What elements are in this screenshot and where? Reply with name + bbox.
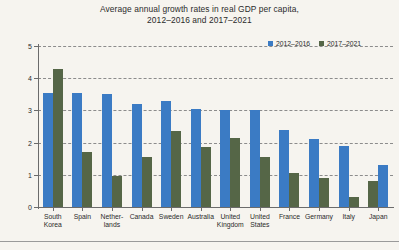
x-axis-tick — [142, 207, 143, 211]
y-axis-tick-label: 3 — [22, 107, 32, 114]
x-axis-tick-label-line: Japan — [356, 213, 399, 221]
bar-group — [216, 46, 246, 207]
x-axis-tick — [82, 207, 83, 211]
x-axis-tick-label-line: lands — [90, 221, 134, 229]
y-axis-tick — [34, 110, 38, 111]
bar — [378, 165, 388, 207]
bar — [368, 181, 378, 207]
x-axis-tick — [53, 207, 54, 211]
y-axis-tick — [34, 143, 38, 144]
bar-group — [363, 46, 393, 207]
x-axis-tick — [230, 207, 231, 211]
x-axis-tick — [171, 207, 172, 211]
bar — [191, 109, 201, 207]
bar-group — [334, 46, 364, 207]
y-axis-tick — [34, 78, 38, 79]
x-axis-line — [38, 207, 394, 208]
chart-title: Average annual growth rates in real GDP … — [0, 4, 399, 15]
bar-group — [156, 46, 186, 207]
bar — [132, 104, 142, 207]
bar-group — [97, 46, 127, 207]
bar — [220, 110, 230, 207]
plot-area — [38, 46, 393, 207]
bar — [112, 176, 122, 207]
footer-rule — [0, 241, 399, 242]
bar — [279, 130, 289, 207]
bar — [161, 101, 171, 207]
chart-figure: Average annual growth rates in real GDP … — [0, 0, 399, 250]
x-axis-tick — [349, 207, 350, 211]
bar — [260, 157, 270, 207]
bar — [53, 69, 63, 207]
x-axis-tick — [260, 207, 261, 211]
x-axis-tick-label: Japan — [356, 213, 399, 221]
bar — [82, 152, 92, 207]
bar-group — [304, 46, 334, 207]
bar — [43, 93, 53, 207]
x-axis-tick — [378, 207, 379, 211]
x-axis-tick — [289, 207, 290, 211]
bar — [289, 173, 299, 207]
y-axis-tick — [34, 175, 38, 176]
bar-group — [127, 46, 157, 207]
bar-group — [245, 46, 275, 207]
bar — [319, 178, 329, 207]
bar — [72, 93, 82, 207]
x-axis-tick-label-line: States — [238, 221, 282, 229]
y-axis-tick-label: 5 — [22, 43, 32, 50]
y-axis-tick — [34, 46, 38, 47]
bar — [201, 147, 211, 207]
chart-title-block: Average annual growth rates in real GDP … — [0, 4, 399, 26]
bar-group — [186, 46, 216, 207]
bar-group — [68, 46, 98, 207]
x-axis-tick — [319, 207, 320, 211]
bar — [230, 138, 240, 207]
y-axis-tick-label: 4 — [22, 75, 32, 82]
bar — [102, 94, 112, 207]
bar — [250, 110, 260, 207]
y-axis-line — [38, 44, 39, 209]
x-axis-tick — [112, 207, 113, 211]
bar-group — [275, 46, 305, 207]
y-axis-tick — [34, 207, 38, 208]
chart-subtitle: 2012–2016 and 2017–2021 — [0, 15, 399, 26]
bar — [309, 139, 319, 207]
y-axis-tick-label: 1 — [22, 171, 32, 178]
x-axis-tick — [201, 207, 202, 211]
bar — [171, 131, 181, 207]
bar — [339, 146, 349, 207]
y-axis-tick-label: 0 — [22, 204, 32, 211]
bar — [142, 157, 152, 207]
y-axis-tick-label: 2 — [22, 139, 32, 146]
bar — [349, 197, 359, 207]
bar-group — [38, 46, 68, 207]
x-axis-tick-label-line: Korea — [31, 221, 75, 229]
